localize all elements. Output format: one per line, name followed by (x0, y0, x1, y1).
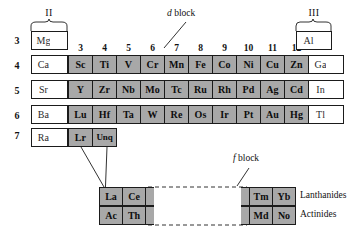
d-block-label: d block (167, 8, 195, 18)
f-block-label: f block (233, 153, 259, 163)
element-cell-v[interactable]: V (116, 55, 141, 74)
f-block-dashed-connector (148, 187, 247, 225)
f-block-leader-line (237, 168, 249, 186)
element-cell-tl-spacer (326, 105, 344, 124)
actinides-label: Actinides (300, 209, 336, 219)
column-number-7: 7 (164, 43, 189, 53)
element-cell-mg-spacer (50, 31, 68, 50)
element-cell-lu[interactable]: Lu (68, 105, 93, 124)
element-cell-cr[interactable]: Cr (140, 55, 165, 74)
column-number-5: 5 (116, 43, 141, 53)
element-cell-y[interactable]: Y (68, 80, 93, 99)
element-cell-zn[interactable]: Zn (284, 55, 309, 74)
element-cell-yb[interactable]: Yb (272, 187, 296, 206)
element-cell-th[interactable]: Th (122, 206, 146, 225)
group-iii-brace (296, 19, 331, 31)
column-number-11: 11 (260, 43, 285, 53)
element-cell-au[interactable]: Au (260, 105, 285, 124)
element-cell-cd[interactable]: Cd (284, 80, 309, 99)
element-cell-al-spacer (314, 31, 332, 50)
element-cell-ru[interactable]: Ru (188, 80, 213, 99)
element-cell-w[interactable]: W (140, 105, 165, 124)
element-cell-ba-spacer (50, 105, 68, 124)
column-number-9: 9 (212, 43, 237, 53)
element-cell-zr[interactable]: Zr (92, 80, 117, 99)
element-cell-ti[interactable]: Ti (92, 55, 117, 74)
group-header-iii: III (297, 7, 331, 18)
element-cell-pt[interactable]: Pt (236, 105, 261, 124)
periodic-table-figure: II III d block f block 3 4 5 6 7 8 9 10 … (0, 0, 348, 244)
d-block-label-rest: block (172, 8, 195, 18)
period-number-5: 5 (10, 85, 24, 96)
element-cell-tc[interactable]: Tc (164, 80, 189, 99)
column-number-8: 8 (188, 43, 213, 53)
element-cell-co[interactable]: Co (212, 55, 237, 74)
column-number-10: 10 (236, 43, 261, 53)
period-number-4: 4 (10, 60, 24, 71)
element-cell-ag[interactable]: Ag (260, 80, 285, 99)
element-cell-unq[interactable]: Unq (92, 128, 117, 147)
period-number-6: 6 (10, 110, 24, 121)
element-cell-ra-spacer (50, 128, 68, 147)
element-cell-hf[interactable]: Hf (92, 105, 117, 124)
element-cell-cu[interactable]: Cu (260, 55, 285, 74)
element-cell-no[interactable]: No (272, 206, 296, 225)
f-block-left-row1-continuation (145, 187, 154, 206)
group-ii-brace (31, 19, 67, 31)
element-cell-pd[interactable]: Pd (236, 80, 261, 99)
element-cell-nb[interactable]: Nb (116, 80, 141, 99)
element-cell-sr-spacer (50, 80, 68, 99)
element-cell-rh[interactable]: Rh (212, 80, 237, 99)
element-cell-ac[interactable]: Ac (99, 206, 123, 225)
column-number-6: 6 (140, 43, 165, 53)
element-cell-tm[interactable]: Tm (249, 187, 273, 206)
f-block-label-rest: block (236, 153, 259, 163)
element-cell-ce[interactable]: Ce (122, 187, 146, 206)
element-cell-ir[interactable]: Ir (212, 105, 237, 124)
f-block-left-row2-continuation (145, 206, 154, 225)
element-cell-mn[interactable]: Mn (164, 55, 189, 74)
element-cell-re[interactable]: Re (164, 105, 189, 124)
element-cell-la[interactable]: La (99, 187, 123, 206)
group-header-ii: II (33, 7, 65, 18)
column-number-3: 3 (68, 43, 93, 53)
period-number-3: 3 (10, 35, 24, 46)
lanthanides-label: Lanthanides (300, 190, 346, 200)
element-cell-ni[interactable]: Ni (236, 55, 261, 74)
element-cell-os[interactable]: Os (188, 105, 213, 124)
element-cell-in-spacer (326, 80, 344, 99)
element-cell-hg[interactable]: Hg (284, 105, 309, 124)
element-cell-ca-spacer (50, 55, 68, 74)
element-cell-md[interactable]: Md (249, 206, 273, 225)
period-number-7: 7 (10, 130, 24, 141)
element-cell-mo[interactable]: Mo (140, 80, 165, 99)
element-cell-ta[interactable]: Ta (116, 105, 141, 124)
element-cell-lr[interactable]: Lr (68, 128, 93, 147)
element-cell-fe[interactable]: Fe (188, 55, 213, 74)
element-cell-ga-spacer (326, 55, 344, 74)
element-cell-sc[interactable]: Sc (68, 55, 93, 74)
column-number-4: 4 (92, 43, 117, 53)
